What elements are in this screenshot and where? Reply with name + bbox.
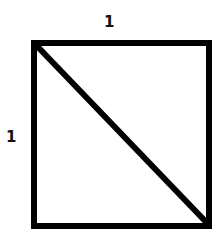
square-diagram: [0, 0, 220, 242]
left-side-length-label: 1: [6, 130, 16, 145]
top-side-length-label: 1: [104, 15, 114, 30]
